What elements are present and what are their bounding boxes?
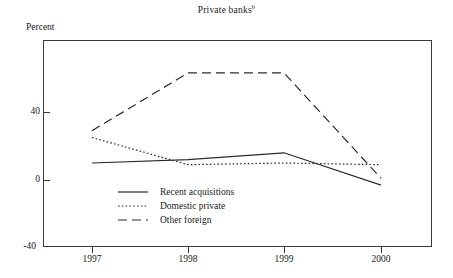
- legend-item-other-foreign: Other foreign: [117, 213, 234, 227]
- legend-swatch-dashed: [117, 215, 149, 225]
- line-other-foreign: [92, 73, 381, 178]
- legend-label-other-foreign: Other foreign: [160, 215, 211, 225]
- legend-label-domestic-private: Domestic private: [160, 201, 225, 211]
- series-lines: [0, 0, 453, 278]
- legend: Recent acquisitions Domestic private Oth…: [117, 185, 234, 227]
- line-recent-acquisitions: [92, 153, 381, 185]
- legend-swatch-dotted: [117, 201, 149, 211]
- legend-item-recent-acquisitions: Recent acquisitions: [117, 185, 234, 199]
- line-domestic-private: [92, 138, 381, 165]
- legend-swatch-solid: [117, 187, 149, 197]
- legend-item-domestic-private: Domestic private: [117, 199, 234, 213]
- figure: Private banksb Percent 40 0 -40 1997 199…: [0, 0, 453, 278]
- legend-label-recent-acquisitions: Recent acquisitions: [160, 187, 234, 197]
